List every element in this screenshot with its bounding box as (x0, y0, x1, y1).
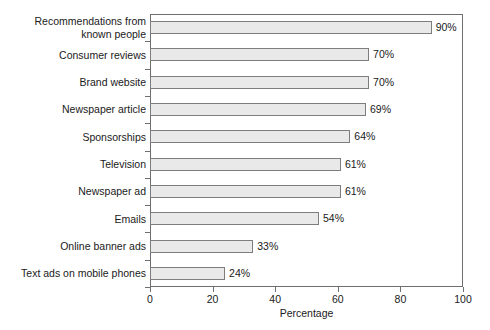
category-label: Newspaper article (0, 103, 146, 115)
x-axis-tick (463, 287, 464, 292)
bar-chart: Recommendations from known peopleConsume… (0, 0, 490, 330)
bar-row: 70% (150, 76, 463, 89)
category-label: Newspaper ad (0, 185, 146, 197)
bar-value-label: 69% (370, 102, 391, 117)
x-axis-tick (338, 287, 339, 292)
bar-value-label: 90% (436, 20, 457, 35)
bar-value-label: 70% (373, 47, 394, 62)
bar-value-label: 61% (345, 157, 366, 172)
bar-value-label: 64% (354, 129, 375, 144)
bar-value-label: 24% (229, 266, 250, 281)
bar[interactable] (150, 185, 341, 198)
bar[interactable] (150, 76, 369, 89)
category-label: Sponsorships (0, 131, 146, 143)
bar-row: 61% (150, 158, 463, 171)
x-axis-tick-label: 60 (318, 293, 358, 306)
y-axis-tick (145, 205, 150, 206)
category-label: Television (0, 158, 146, 170)
x-axis-tick (400, 287, 401, 292)
x-axis-tick (213, 287, 214, 292)
bar[interactable] (150, 240, 253, 253)
y-axis-tick (145, 123, 150, 124)
x-axis-tick-label: 100 (443, 293, 483, 306)
x-axis-tick (150, 287, 151, 292)
bar-row: 54% (150, 212, 463, 225)
bar-row: 69% (150, 103, 463, 116)
y-axis-tick (145, 96, 150, 97)
x-axis-tick-label: 40 (255, 293, 295, 306)
category-label: Online banner ads (0, 240, 146, 252)
category-label: Consumer reviews (0, 49, 146, 61)
bar-value-label: 61% (345, 184, 366, 199)
bar[interactable] (150, 103, 366, 116)
bar-value-label: 70% (373, 75, 394, 90)
bar[interactable] (150, 158, 341, 171)
category-label: Brand website (0, 76, 146, 88)
y-axis-tick (145, 178, 150, 179)
bar-row: 70% (150, 48, 463, 61)
y-axis-tick (145, 69, 150, 70)
bar[interactable] (150, 212, 319, 225)
bar[interactable] (150, 267, 225, 280)
category-label: Recommendations from known people (0, 15, 146, 39)
y-axis-tick (145, 232, 150, 233)
category-label: Emails (0, 213, 146, 225)
bar-row: 24% (150, 267, 463, 280)
category-label: Text ads on mobile phones (0, 267, 146, 279)
y-axis-tick (145, 260, 150, 261)
x-axis-tick-label: 0 (130, 293, 170, 306)
bars-layer: 90%70%70%69%64%61%61%54%33%24% (150, 14, 463, 287)
bar-value-label: 33% (257, 239, 278, 254)
bar[interactable] (150, 130, 350, 143)
y-axis-tick (145, 151, 150, 152)
bar[interactable] (150, 48, 369, 61)
x-axis-title: Percentage (150, 307, 463, 320)
bar[interactable] (150, 21, 432, 34)
bar-row: 90% (150, 21, 463, 34)
bar-row: 64% (150, 130, 463, 143)
x-axis-tick-label: 20 (193, 293, 233, 306)
category-axis-labels: Recommendations from known peopleConsume… (0, 14, 146, 287)
x-axis-tick-label: 80 (380, 293, 420, 306)
bar-value-label: 54% (323, 211, 344, 226)
bar-row: 33% (150, 240, 463, 253)
x-axis-tick (275, 287, 276, 292)
bar-row: 61% (150, 185, 463, 198)
y-axis-tick (145, 41, 150, 42)
